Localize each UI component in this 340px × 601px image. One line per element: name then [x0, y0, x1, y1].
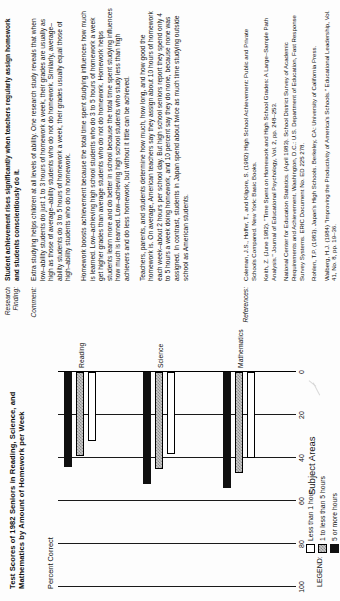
chart-y-axis-label: Percent Correct: [46, 537, 55, 589]
bar-mathematics-gray: [235, 372, 243, 473]
y-tick-80: 80: [298, 540, 305, 548]
bar-mathematics-black: [223, 372, 231, 488]
y-tick-0: 0: [298, 370, 305, 374]
y-tick-20: 20: [298, 411, 305, 419]
article-text: Research Finding: Student achievement ri…: [4, 5, 336, 339]
chart-figure: Test Scores of 1982 Seniors in Reading, …: [6, 341, 336, 591]
references-list: Coleman, J.S., Hoffer, T., and Kilgore, …: [242, 7, 340, 281]
reference-4: Rohlen, T.P. (1983). Japan's High School…: [310, 7, 318, 281]
reference-1: Coleman, J.S., Hoffer, T., and Kilgore, …: [242, 7, 257, 281]
y-tick-100: 100: [298, 581, 305, 593]
bar-science-white: [167, 372, 175, 454]
plot-area: 020406080100ReadingScienceMathematics: [58, 372, 308, 587]
category-label-reading: Reading: [78, 343, 85, 368]
gridline-80: [58, 543, 296, 544]
bar-reading-black: [64, 372, 72, 467]
legend-swatch-white: [306, 544, 315, 553]
bar-reading-white: [88, 372, 96, 441]
gutter-references: References:: [242, 287, 250, 339]
gridline-100: [58, 586, 296, 587]
gutter-research-finding: Research Finding:: [4, 287, 20, 339]
comment-paragraph-3: Teachers, parents, and students determin…: [139, 7, 191, 281]
legend-title: LEGEND:: [316, 556, 323, 587]
comment-paragraph-1: Extra studying helps children at all lev…: [30, 7, 73, 281]
rotated-page-content: Test Scores of 1982 Seniors in Reading, …: [0, 0, 340, 601]
legend-item-black: 5 or more hours: [330, 493, 339, 553]
y-tick-60: 60: [298, 497, 305, 505]
bar-science-black: [143, 372, 151, 484]
reference-2: Keith, Z. (June 1982). "Time Spent on Ho…: [262, 7, 277, 281]
legend-label-gray: 1 to less than 5 hours: [319, 476, 326, 541]
chart-title: Test Scores of 1982 Seniors in Reading, …: [8, 343, 26, 589]
chart-x-axis-label: Subject Areas: [306, 436, 317, 495]
legend-swatch-gray: [318, 544, 327, 553]
gridline-40: [58, 457, 296, 458]
bar-reading-gray: [76, 372, 84, 456]
legend-item-gray: 1 to less than 5 hours: [318, 476, 327, 553]
bar-science-gray: [155, 372, 163, 469]
comment-paragraph-2: Homework boosts achievement because the …: [80, 7, 132, 281]
y-tick-40: 40: [298, 454, 305, 462]
gutter-comment: Comment:: [30, 287, 38, 339]
reference-3: National Center for Education Statistics…: [282, 7, 305, 281]
bar-mathematics-white: [247, 372, 255, 458]
reference-5: Walberg, H.J. (1984) "Improving the Prod…: [323, 7, 338, 281]
category-label-science: Science: [157, 344, 164, 368]
comment-text: Extra studying helps children at all lev…: [30, 7, 197, 281]
legend-label-black: 5 or more hours: [331, 493, 338, 541]
scanned-page: Test Scores of 1982 Seniors in Reading, …: [0, 0, 340, 601]
legend-item-white: Less than 1 hour: [306, 490, 315, 553]
gridline-60: [58, 500, 296, 501]
legend-label-white: Less than 1 hour: [307, 490, 314, 541]
legend-swatch-black: [330, 544, 339, 553]
research-finding-text: Student achievement rises significantly …: [4, 7, 21, 281]
